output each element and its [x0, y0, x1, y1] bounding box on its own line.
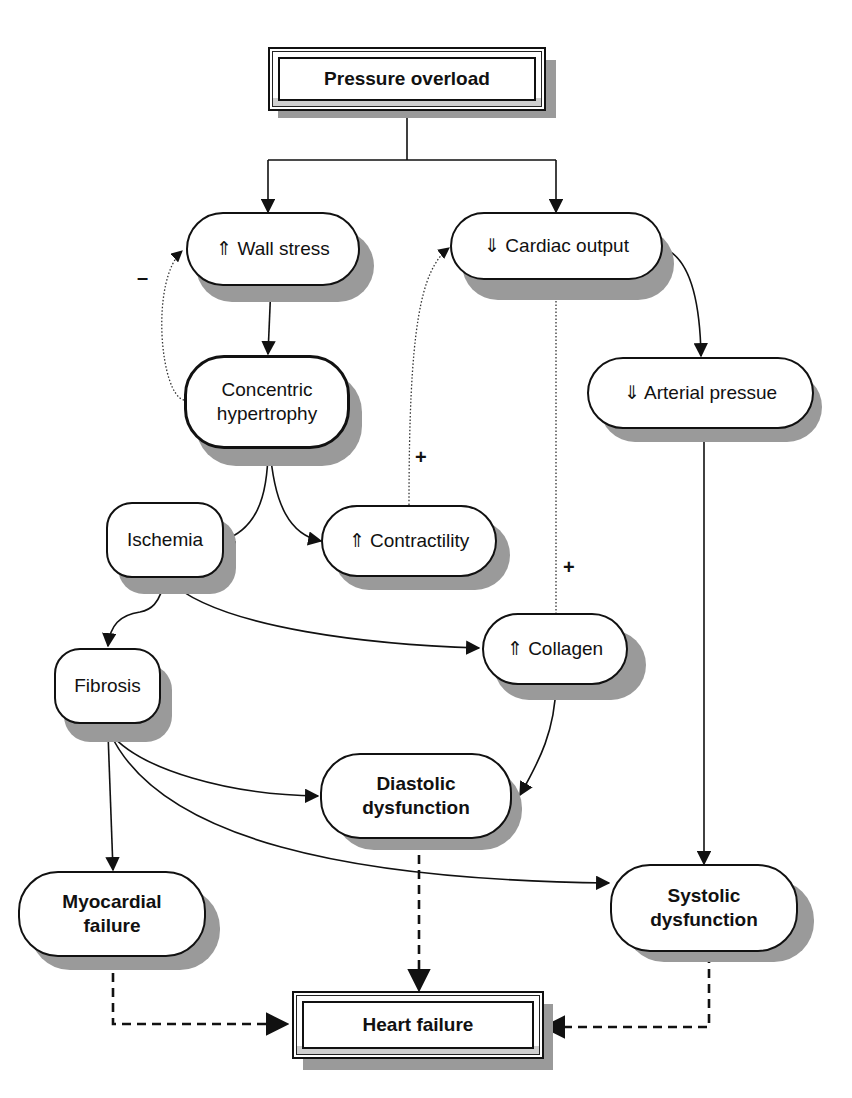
edge-fibrosis-to-myocardial	[108, 733, 113, 870]
node-contractility[interactable]: ⇑ Contractility	[321, 505, 497, 577]
node-diastolic-dysfunction-label: Diastolic dysfunction	[351, 772, 481, 820]
node-systolic-dysfunction-label: Systolic dysfunction	[639, 884, 769, 932]
node-contractility-label: ⇑ Contractility	[349, 529, 470, 553]
node-pressure-overload[interactable]: Pressure overload	[268, 47, 546, 111]
node-collagen-label: ⇑ Collagen	[507, 637, 603, 661]
node-concentric-hypertrophy-label: Concentric hypertrophy	[202, 378, 332, 426]
node-cardiac-output-label: ⇓ Cardiac output	[484, 234, 629, 258]
node-fibrosis[interactable]: Fibrosis	[54, 648, 161, 724]
node-myocardial-failure[interactable]: Myocardial failure	[18, 871, 206, 957]
node-heart-failure[interactable]: Heart failure	[292, 991, 544, 1059]
contractility-positive-sign: +	[415, 446, 427, 469]
node-fibrosis-label: Fibrosis	[74, 674, 141, 698]
node-wall-stress[interactable]: ⇑ Wall stress	[186, 212, 360, 286]
node-ischemia[interactable]: Ischemia	[106, 502, 224, 578]
node-ischemia-label: Ischemia	[127, 528, 203, 552]
collagen-positive-sign: +	[563, 556, 575, 579]
node-diastolic-dysfunction[interactable]: Diastolic dysfunction	[320, 753, 512, 839]
node-arterial-pressure[interactable]: ⇓ Arterial pressue	[587, 357, 814, 429]
node-pressure-overload-label: Pressure overload	[278, 57, 536, 101]
node-systolic-dysfunction[interactable]: Systolic dysfunction	[610, 864, 798, 952]
node-arterial-pressure-label: ⇓ Arterial pressue	[624, 381, 777, 405]
edge-fibrosis-to-diastolic	[110, 733, 318, 796]
negative-feedback-sign: –	[137, 266, 148, 289]
node-wall-stress-label: ⇑ Wall stress	[216, 237, 329, 261]
node-collagen[interactable]: ⇑ Collagen	[482, 613, 628, 685]
edge-hypertrophy-to-wallstress-feedback	[162, 251, 184, 400]
edge-collagen-to-diastolic	[520, 684, 556, 795]
node-cardiac-output[interactable]: ⇓ Cardiac output	[450, 212, 663, 280]
node-concentric-hypertrophy[interactable]: Concentric hypertrophy	[184, 355, 350, 449]
node-myocardial-failure-label: Myocardial failure	[47, 890, 177, 938]
node-heart-failure-label: Heart failure	[302, 1001, 534, 1049]
